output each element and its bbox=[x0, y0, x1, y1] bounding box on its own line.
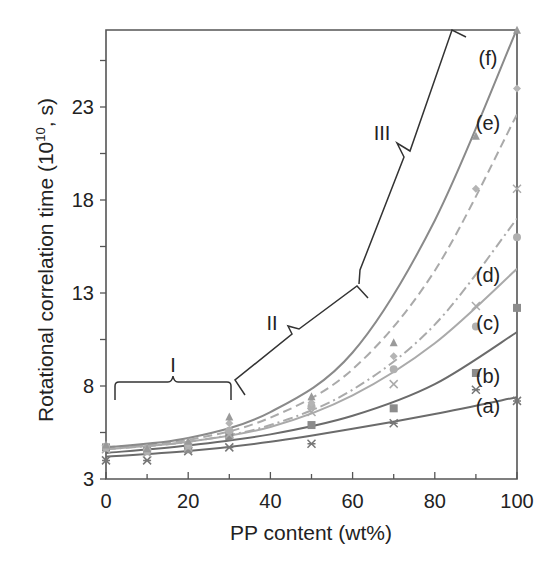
y-tick-label: 18 bbox=[72, 189, 94, 211]
region-label: III bbox=[374, 122, 391, 144]
marker-x-star-icon bbox=[390, 419, 398, 427]
marker-square-icon bbox=[308, 421, 316, 429]
chart: 02040608010038131823 IIIIII (a)(b)(c)(d)… bbox=[0, 0, 557, 567]
marker-circle-icon bbox=[390, 365, 398, 373]
x-tick-label: 100 bbox=[500, 490, 533, 512]
curve-label: (f) bbox=[479, 47, 498, 69]
marker-square-icon bbox=[390, 404, 398, 412]
fit-curve-d bbox=[106, 219, 517, 450]
region-braces: IIIIII bbox=[115, 30, 466, 400]
x-tick-label: 0 bbox=[100, 490, 111, 512]
marker-x-star-icon bbox=[225, 443, 233, 451]
curve-label: (a) bbox=[476, 395, 500, 417]
curve-label: (e) bbox=[476, 112, 500, 134]
marker-circle-icon bbox=[225, 427, 233, 435]
y-tick-label: 3 bbox=[83, 468, 94, 490]
marker-square-icon bbox=[513, 304, 521, 312]
y-tick-label: 8 bbox=[83, 375, 94, 397]
y-tick-label: 23 bbox=[72, 96, 94, 118]
curve-label: (b) bbox=[476, 365, 500, 387]
axis-ticks bbox=[100, 61, 517, 480]
curve-label: (d) bbox=[476, 264, 500, 286]
fit-curve-f bbox=[106, 29, 517, 448]
marker-x-star-icon bbox=[143, 456, 151, 464]
marker-cross-icon bbox=[390, 380, 398, 388]
region-label: I bbox=[170, 354, 176, 376]
data-markers bbox=[102, 26, 521, 465]
marker-x-star-icon bbox=[308, 440, 316, 448]
brace-region-1 bbox=[115, 376, 231, 400]
x-tick-label: 60 bbox=[341, 490, 363, 512]
curve-label: (c) bbox=[476, 312, 499, 334]
region-label: II bbox=[266, 312, 277, 334]
marker-diamond-icon bbox=[513, 84, 521, 92]
marker-triangle-icon bbox=[390, 338, 398, 346]
y-axis-title-main: Rotational correlation time (10 bbox=[34, 142, 57, 422]
x-axis-title: PP content (wt%) bbox=[230, 521, 392, 544]
marker-triangle-icon bbox=[225, 413, 233, 421]
x-tick-label: 80 bbox=[424, 490, 446, 512]
y-axis-title-sup: 10 bbox=[33, 127, 48, 141]
curve-labels: (a)(b)(c)(d)(e)(f) bbox=[476, 47, 500, 417]
x-tick-label: 40 bbox=[259, 490, 281, 512]
marker-circle-icon bbox=[513, 233, 521, 241]
y-axis-title-tail: , s) bbox=[34, 98, 57, 127]
brace-region-2 bbox=[235, 286, 368, 395]
y-axis-title: Rotational correlation time (1010, s) bbox=[33, 98, 57, 422]
x-tick-label: 20 bbox=[177, 490, 199, 512]
y-tick-label: 13 bbox=[72, 282, 94, 304]
